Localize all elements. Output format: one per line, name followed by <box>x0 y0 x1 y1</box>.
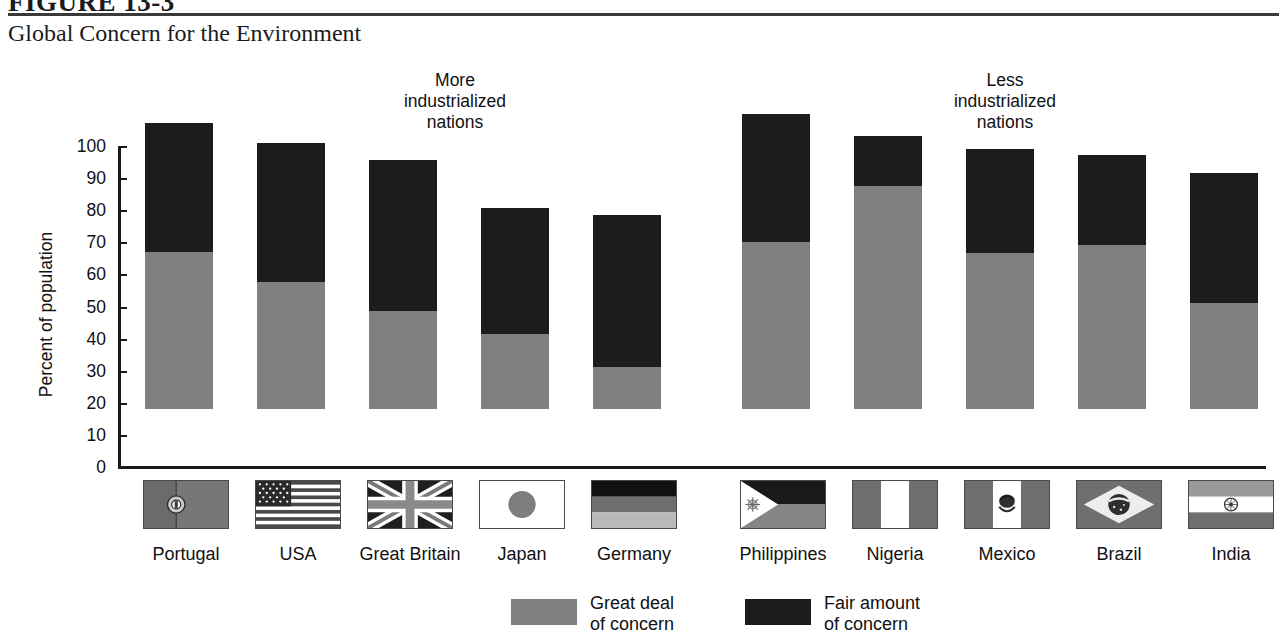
y-tick-20 <box>118 403 127 405</box>
y-tick-70 <box>118 242 127 244</box>
figure-header: FIGURE 13-3 Global Concern for the Envir… <box>0 0 1288 58</box>
y-tick-100 <box>118 146 127 148</box>
x-axis-line <box>118 466 1266 469</box>
y-tick-label-10: 10 <box>54 425 106 446</box>
bar-segment-fair-amount <box>145 123 213 251</box>
bar-segment-great-deal <box>1190 303 1258 409</box>
legend-label-fair-amount: Fair amount of concern <box>824 593 920 635</box>
bar-segment-great-deal <box>1078 245 1146 409</box>
bar-segment-fair-amount <box>854 136 922 186</box>
bar-segment-great-deal <box>481 334 549 409</box>
bar-segment-great-deal <box>257 282 325 409</box>
y-tick-40 <box>118 339 127 341</box>
bar-segment-fair-amount <box>257 143 325 283</box>
bar-segment-fair-amount <box>742 114 810 242</box>
y-tick-label-100: 100 <box>54 136 106 157</box>
flag-mexico <box>964 480 1050 529</box>
flag-india <box>1188 480 1274 529</box>
flag-germany <box>591 480 677 529</box>
y-tick-80 <box>118 210 127 212</box>
bar-segment-great-deal <box>742 242 810 409</box>
flag-portugal <box>143 480 229 529</box>
y-tick-10 <box>118 435 127 437</box>
bar-segment-fair-amount <box>481 208 549 333</box>
country-label-germany: Germany <box>559 544 709 565</box>
y-tick-label-70: 70 <box>54 232 106 253</box>
y-tick-label-50: 50 <box>54 297 106 318</box>
y-tick-label-20: 20 <box>54 393 106 414</box>
bar-segment-fair-amount <box>369 160 437 311</box>
legend-label-great-deal: Great deal of concern <box>590 593 674 635</box>
bar-segment-great-deal <box>593 367 661 409</box>
bar-segment-great-deal <box>854 186 922 409</box>
flag-philippines <box>740 480 826 529</box>
y-tick-60 <box>118 274 127 276</box>
flag-great-britain <box>367 480 453 529</box>
bar-segment-fair-amount <box>593 215 661 367</box>
bar-segment-great-deal <box>966 253 1034 409</box>
header-divider <box>8 13 1279 16</box>
flag-usa <box>255 480 341 529</box>
country-label-india: India <box>1156 544 1288 565</box>
bar-segment-great-deal <box>369 311 437 409</box>
bar-segment-fair-amount <box>1190 173 1258 303</box>
y-tick-label-30: 30 <box>54 361 106 382</box>
group-label-more-industrialized: More industrialized nations <box>330 70 580 133</box>
y-tick-label-80: 80 <box>54 200 106 221</box>
figure-title: Global Concern for the Environment <box>8 20 361 47</box>
flag-japan <box>479 480 565 529</box>
legend-swatch-gray <box>511 599 577 625</box>
y-tick-label-0: 0 <box>54 457 106 478</box>
chart-legend: Great deal of concern Fair amount of con… <box>0 585 1288 643</box>
y-tick-label-90: 90 <box>54 168 106 189</box>
legend-swatch-dark <box>745 599 811 625</box>
flag-brazil <box>1076 480 1162 529</box>
bar-segment-fair-amount <box>1078 155 1146 245</box>
flag-nigeria <box>852 480 938 529</box>
y-tick-0 <box>118 467 127 469</box>
group-label-less-industrialized: Less industrialized nations <box>880 70 1130 133</box>
y-tick-50 <box>118 307 127 309</box>
bar-segment-fair-amount <box>966 149 1034 253</box>
y-tick-90 <box>118 178 127 180</box>
bar-segment-great-deal <box>145 252 213 409</box>
y-tick-label-40: 40 <box>54 329 106 350</box>
y-tick-30 <box>118 371 127 373</box>
chart-area: More industrialized nations Less industr… <box>0 58 1288 643</box>
y-tick-label-60: 60 <box>54 264 106 285</box>
